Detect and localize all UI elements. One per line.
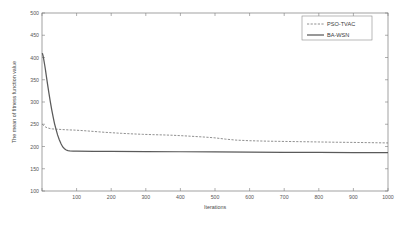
x-tick-label: 400 [176,194,185,200]
x-tick-label: 1000 [382,194,394,200]
x-tick-label: 500 [211,194,220,200]
x-tick-label: 900 [349,194,358,200]
x-tick-label: 800 [314,194,323,200]
y-tick-label: 400 [30,55,39,61]
legend-label-ba-wsn: BA-WSN [327,32,349,38]
chart-canvas: 1002003004005006007008009001000100150200… [0,0,404,228]
y-tick-label: 200 [30,144,39,150]
x-tick-label: 700 [280,194,289,200]
y-tick-label: 150 [30,166,39,172]
x-tick-label: 600 [245,194,254,200]
y-tick-label: 450 [30,32,39,38]
y-tick-label: 500 [30,10,39,16]
x-axis-title: Iterations [204,204,226,210]
y-tick-label: 350 [30,77,39,83]
y-tick-label: 250 [30,121,39,127]
x-tick-label: 200 [107,194,116,200]
series-line-pso-tvac [42,124,388,143]
x-tick-label: 100 [72,194,81,200]
legend-label-pso-tvac: PSO-TVAC [327,21,355,27]
fitness-convergence-chart: 1002003004005006007008009001000100150200… [0,0,404,228]
y-axis-title: The mean of fitness function value [11,61,17,143]
x-tick-label: 300 [141,194,150,200]
y-tick-label: 300 [30,99,39,105]
y-tick-label: 100 [30,188,39,194]
